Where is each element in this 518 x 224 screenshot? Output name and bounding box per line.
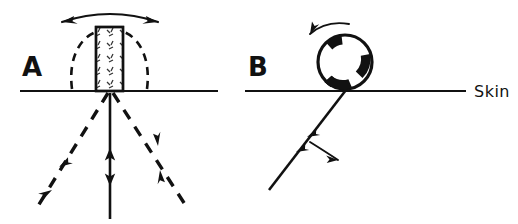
figure-root: A bbox=[0, 0, 518, 224]
panel-a: A bbox=[20, 14, 218, 219]
ray-right bbox=[113, 93, 186, 206]
stippled-cylinder-probe bbox=[96, 27, 123, 91]
panel-b: B bbox=[245, 21, 510, 190]
double-headed-rotation-arrow bbox=[62, 14, 158, 24]
shaft-sweep-arrow bbox=[310, 142, 338, 163]
skin-label: Skin bbox=[474, 82, 510, 101]
figure-canvas: A bbox=[0, 0, 518, 224]
panel-a-letter: A bbox=[22, 52, 42, 82]
ray-left bbox=[37, 93, 108, 206]
counterclockwise-rotation-arrow bbox=[310, 21, 349, 34]
subdermal-rays bbox=[37, 93, 186, 219]
ray-center bbox=[105, 93, 115, 219]
toothed-rotating-wheel bbox=[318, 35, 372, 89]
oblique-needle-shaft bbox=[269, 90, 346, 190]
panel-b-letter: B bbox=[248, 52, 268, 82]
